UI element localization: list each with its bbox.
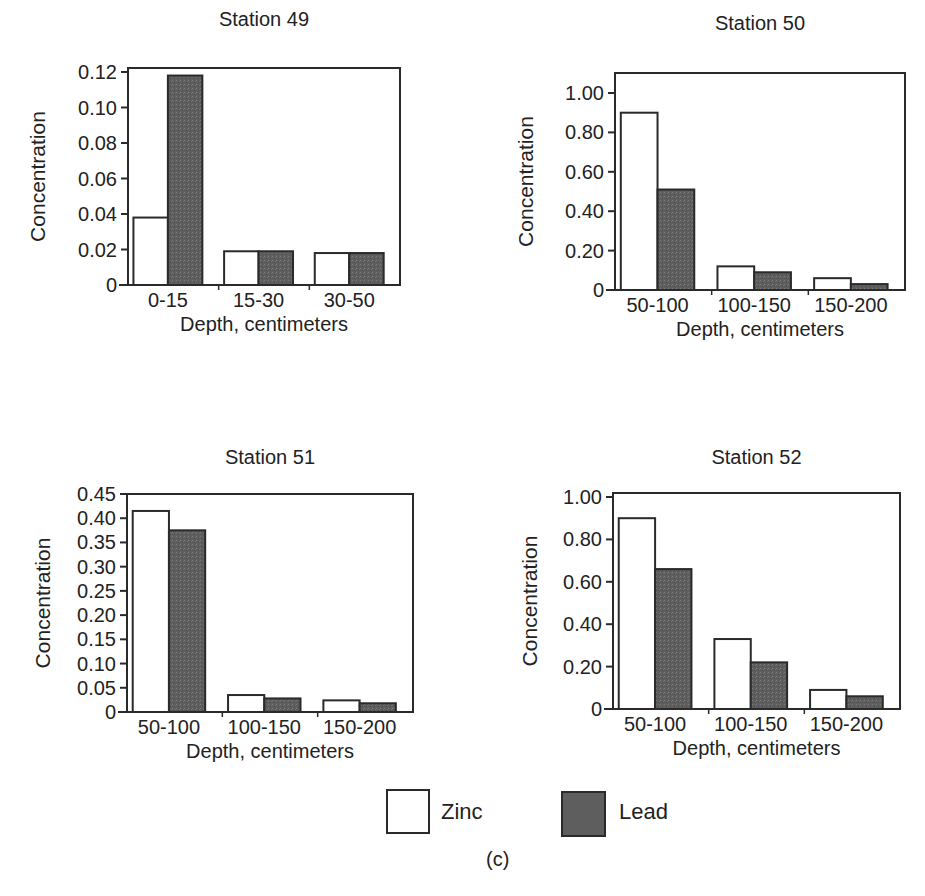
chart-title: Station 50: [715, 12, 805, 34]
y-tick-label: 0.20: [563, 656, 602, 678]
bar-zinc-150-200: [323, 700, 359, 712]
y-tick-label: 0.10: [78, 97, 117, 119]
y-tick-label: 0.05: [77, 677, 116, 699]
y-tick-label: 0: [106, 274, 117, 296]
y-axis-label: Concentration: [514, 116, 537, 247]
y-tick-label: 0: [105, 701, 116, 723]
x-tick-label: 150-200: [814, 294, 887, 316]
chart-panel-station-50: Station 5000.200.400.600.801.00Concentra…: [514, 12, 905, 340]
bar-lead-150-200: [846, 696, 882, 709]
y-tick-label: 0.20: [565, 240, 604, 262]
y-tick-label: 1.00: [563, 486, 602, 508]
y-tick-label: 0.80: [563, 528, 602, 550]
y-tick-label: 0.15: [77, 628, 116, 650]
x-tick-label: 100-150: [714, 713, 787, 735]
x-tick-label: 150-200: [323, 716, 396, 738]
bar-lead-150-200: [360, 703, 396, 712]
legend-label-zinc: Zinc: [441, 799, 483, 825]
y-tick-label: 0.25: [77, 580, 116, 602]
chart-title: Station 51: [225, 446, 315, 468]
figure: Station 4900.020.040.060.080.100.12Conce…: [0, 0, 925, 896]
bar-lead-100-150: [754, 272, 791, 290]
bar-lead-50-100: [658, 190, 695, 290]
x-tick-label: 50-100: [624, 713, 686, 735]
x-axis-label: Depth, centimeters: [673, 737, 841, 759]
bar-zinc-15-30: [224, 251, 258, 285]
y-tick-label: 0.60: [563, 571, 602, 593]
y-tick-label: 0.40: [77, 507, 116, 529]
x-tick-label: 15-30: [233, 289, 284, 311]
y-tick-label: 0.60: [565, 161, 604, 183]
bar-zinc-50-100: [133, 511, 169, 712]
y-tick-label: 1.00: [565, 82, 604, 104]
legend-swatch-zinc: [386, 789, 430, 834]
y-tick-label: 0.40: [563, 613, 602, 635]
y-tick-label: 0.40: [565, 200, 604, 222]
y-tick-label: 0.02: [78, 239, 117, 261]
chart-panel-station-49: Station 4900.020.040.060.080.100.12Conce…: [26, 8, 400, 335]
bar-lead-150-200: [851, 284, 888, 290]
bar-zinc-100-150: [228, 695, 264, 712]
chart-title: Station 49: [219, 8, 309, 30]
x-axis-label: Depth, centimeters: [180, 313, 348, 335]
x-axis-label: Depth, centimeters: [186, 740, 354, 762]
bar-lead-50-100: [169, 530, 205, 712]
y-axis-label: Concentration: [31, 538, 54, 669]
y-tick-label: 0: [593, 279, 604, 301]
y-tick-label: 0.30: [77, 556, 116, 578]
chart-panel-station-51: Station 5100.050.100.150.200.250.300.350…: [31, 446, 413, 762]
bar-lead-30-50: [349, 253, 383, 285]
x-tick-label: 100-150: [228, 716, 301, 738]
y-tick-label: 0: [591, 698, 602, 720]
y-axis-label: Concentration: [26, 111, 49, 242]
chart-panel-station-52: Station 5200.200.400.600.801.00Concentra…: [518, 446, 900, 759]
bar-zinc-50-100: [621, 113, 658, 290]
x-tick-label: 0-15: [148, 289, 188, 311]
y-tick-label: 0.08: [78, 132, 117, 154]
legend-label-lead: Lead: [619, 799, 668, 825]
bar-zinc-50-100: [619, 518, 655, 709]
x-tick-label: 100-150: [717, 294, 790, 316]
y-tick-label: 0.12: [78, 61, 117, 83]
y-tick-label: 0.04: [78, 203, 117, 225]
y-tick-label: 0.20: [77, 604, 116, 626]
bar-zinc-100-150: [714, 639, 750, 709]
y-tick-label: 0.06: [78, 168, 117, 190]
x-tick-label: 50-100: [626, 294, 688, 316]
legend-swatch-lead: [561, 791, 606, 837]
figure-caption: (c): [486, 848, 509, 871]
bar-lead-100-150: [751, 662, 787, 709]
bar-zinc-0-15: [133, 218, 167, 285]
y-tick-label: 0.45: [77, 483, 116, 505]
bar-zinc-30-50: [315, 253, 349, 285]
x-tick-label: 150-200: [810, 713, 883, 735]
bar-lead-15-30: [259, 251, 293, 285]
y-tick-label: 0.80: [565, 121, 604, 143]
x-axis-label: Depth, centimeters: [676, 318, 844, 340]
bar-zinc-150-200: [814, 278, 851, 290]
x-tick-label: 30-50: [324, 289, 375, 311]
bar-lead-100-150: [264, 698, 300, 712]
bar-zinc-100-150: [717, 266, 754, 290]
bar-lead-50-100: [655, 569, 691, 709]
chart-title: Station 52: [711, 446, 801, 468]
y-axis-label: Concentration: [518, 536, 541, 667]
y-tick-label: 0.10: [77, 653, 116, 675]
y-tick-label: 0.35: [77, 531, 116, 553]
x-tick-label: 50-100: [138, 716, 200, 738]
bar-lead-0-15: [168, 76, 202, 285]
bar-zinc-150-200: [810, 690, 846, 709]
